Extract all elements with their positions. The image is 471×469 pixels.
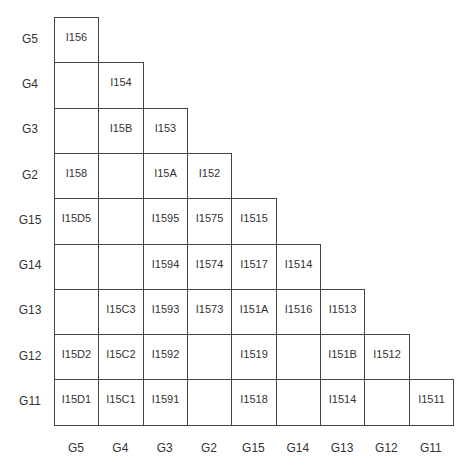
cell-label: I1593 [144,303,187,316]
cell-label: I15D5 [55,212,98,225]
triangular-matrix-diagram: G5G4G3G2G15G14G13G12G11G5G4G3G2G15G14G13… [0,0,471,469]
cell-label: I1514 [321,393,364,406]
matrix-cell: I151B [320,334,365,380]
matrix-cell: I1574 [187,244,232,290]
cell-label: I151A [232,303,276,316]
matrix-cell: I15D2 [54,334,99,380]
matrix-cell [276,334,321,380]
cell-label: I15B [99,122,143,135]
column-label: G14 [276,441,320,455]
cell-label: I15C2 [99,348,143,361]
cell-label: I153 [144,122,187,135]
matrix-cell: I1592 [143,334,188,380]
matrix-cell: I1514 [320,379,365,426]
matrix-cell: I152 [187,153,232,199]
row-label: G14 [12,258,48,272]
matrix-cell: I1514 [276,244,321,290]
row-label: G11 [12,394,48,408]
matrix-cell: I1511 [409,379,454,426]
matrix-cell: I1517 [231,244,277,290]
matrix-cell: I1519 [231,334,277,380]
matrix-cell [98,244,144,290]
cell-label: I1518 [232,393,276,406]
matrix-cell: I15C1 [98,379,144,426]
cell-label: I1512 [365,348,409,361]
column-label: G4 [98,441,142,455]
matrix-cell: I15D1 [54,379,99,426]
cell-label: I1516 [277,303,320,316]
matrix-cell: I1595 [143,198,188,245]
row-label: G3 [12,122,48,136]
cell-label: I15C3 [99,303,143,316]
cell-label: I1515 [232,212,276,225]
row-label: G15 [12,213,48,227]
matrix-cell: I1518 [231,379,277,426]
matrix-cell: I15C3 [98,289,144,335]
matrix-cell: I1593 [143,289,188,335]
cell-label: I1513 [321,303,364,316]
column-label: G12 [364,441,408,455]
matrix-cell: I15A [143,153,188,199]
cell-label: I1517 [232,258,276,271]
matrix-cell: I151A [231,289,277,335]
matrix-cell: I1591 [143,379,188,426]
row-label: G2 [12,168,48,182]
matrix-cell: I1515 [231,198,277,245]
matrix-cell: I1516 [276,289,321,335]
matrix-cell [276,379,321,426]
matrix-cell [54,62,99,109]
matrix-cell: I158 [54,153,99,199]
matrix-cell [98,198,144,245]
column-label: G15 [231,441,275,455]
cell-label: I1591 [144,393,187,406]
cell-label: I152 [188,167,231,180]
row-label: G5 [12,32,48,46]
matrix-cell: I156 [54,17,99,63]
cell-label: I15D1 [55,393,98,406]
row-label: G13 [12,303,48,317]
column-label: G13 [320,441,364,455]
cell-label: I154 [99,76,143,89]
cell-label: I1595 [144,212,187,225]
cell-label: I15D2 [55,348,98,361]
column-label: G11 [409,441,453,455]
cell-label: I1574 [188,258,231,271]
column-label: G5 [54,441,98,455]
column-label: G3 [143,441,187,455]
matrix-cell [54,108,99,154]
cell-label: I1594 [144,258,187,271]
cell-label: I1592 [144,348,187,361]
matrix-cell: I15D5 [54,198,99,245]
matrix-cell: I1575 [187,198,232,245]
matrix-cell: I15B [98,108,144,154]
matrix-cell [187,334,232,380]
matrix-cell [54,289,99,335]
cell-label: I1575 [188,212,231,225]
matrix-cell [54,244,99,290]
column-label: G2 [187,441,231,455]
cell-label: I15A [144,167,187,180]
cell-label: I1573 [188,303,231,316]
matrix-cell: I1513 [320,289,365,335]
row-label: G4 [12,77,48,91]
matrix-cell: I153 [143,108,188,154]
matrix-cell: I1594 [143,244,188,290]
cell-label: I1519 [232,348,276,361]
matrix-cell: I154 [98,62,144,109]
matrix-cell [187,379,232,426]
cell-label: I1511 [410,393,453,406]
cell-label: I151B [321,348,364,361]
row-label: G12 [12,349,48,363]
cell-label: I158 [55,167,98,180]
matrix-cell: I1573 [187,289,232,335]
matrix-cell [364,379,410,426]
cell-label: I1514 [277,258,320,271]
cell-label: I156 [55,31,98,44]
matrix-cell: I15C2 [98,334,144,380]
matrix-cell [98,153,144,199]
matrix-cell: I1512 [364,334,410,380]
cell-label: I15C1 [99,393,143,406]
